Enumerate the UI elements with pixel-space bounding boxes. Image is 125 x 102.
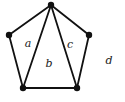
face-label-d: d	[105, 55, 112, 66]
vertex-top	[48, 2, 54, 8]
edge-layer	[9, 5, 89, 88]
vertex-bottom-right	[74, 85, 80, 91]
graph-canvas	[0, 0, 125, 102]
edge-top-right	[51, 5, 89, 35]
vertex-right	[86, 32, 92, 38]
edge-top-bottom-right	[51, 5, 77, 88]
face-label-c: c	[67, 39, 73, 50]
graph-figure: abcd	[0, 0, 125, 102]
edge-top-left	[9, 5, 51, 35]
edge-left-bottom-left	[9, 35, 23, 88]
vertex-left	[6, 32, 12, 38]
face-label-b: b	[45, 58, 52, 69]
edge-right-bottom-right	[77, 35, 89, 88]
face-label-a: a	[25, 38, 32, 49]
vertex-bottom-left	[20, 85, 26, 91]
